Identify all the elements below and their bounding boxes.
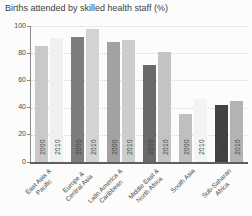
chart-title: Births attended by skilled health staff … xyxy=(5,3,168,13)
bar-group5-2000: 2000 xyxy=(179,114,192,162)
bar-group3-2010: 2010 xyxy=(122,40,135,162)
bar-year-label: 2010 xyxy=(53,139,60,155)
x-axis-line xyxy=(30,162,248,164)
y-tick-mark-80 xyxy=(27,53,30,54)
gridline-80 xyxy=(31,53,247,54)
y-tick-label-60: 60 xyxy=(0,76,26,83)
bar-year-label: 2000 xyxy=(182,139,189,155)
category-label-6: Sub-Saharan Africa xyxy=(200,167,238,205)
y-tick-label-100: 100 xyxy=(0,22,26,29)
bar-year-label: 2000 xyxy=(74,139,81,155)
bar-group6-2010: 2010 xyxy=(230,101,243,162)
y-tick-label-80: 80 xyxy=(0,49,26,56)
bar-group4-2010: 2010 xyxy=(158,52,171,162)
bar-year-label: 2010 xyxy=(89,139,96,155)
category-label-3: Latin America & Caribbean xyxy=(87,167,130,210)
bar-year-label: 2000 xyxy=(146,139,153,155)
gridline-100 xyxy=(31,26,247,27)
y-tick-mark-20 xyxy=(27,134,30,135)
bar-year-label: 2010 xyxy=(161,139,168,155)
category-label-4: Middle East & North Africa xyxy=(127,167,166,206)
bar-group3-2000: 2000 xyxy=(107,42,120,162)
chart-figure: Births attended by skilled health staff … xyxy=(0,0,252,216)
bar-group2-2000: 2000 xyxy=(71,37,84,162)
y-tick-label-40: 40 xyxy=(0,103,26,110)
y-tick-mark-60 xyxy=(27,80,30,81)
category-label-1: East Asia & Pacific xyxy=(23,167,58,202)
bar-group6-2000: 2000 xyxy=(215,105,228,162)
bar-year-label: 2010 xyxy=(233,139,240,155)
y-tick-mark-40 xyxy=(27,107,30,108)
plot-canvas: 2000201020002010200020102000201020002010… xyxy=(31,26,247,162)
y-tick-label-20: 20 xyxy=(0,130,26,137)
y-tick-label-0: 0 xyxy=(0,158,26,165)
y-tick-mark-0 xyxy=(27,162,30,163)
y-tick-mark-100 xyxy=(27,26,30,27)
bar-year-label: 2010 xyxy=(125,139,132,155)
bar-group5-2010: 2010 xyxy=(194,99,207,162)
category-label-5: South Asia xyxy=(169,167,196,194)
bar-group1-2010: 2010 xyxy=(50,38,63,162)
gridline-60 xyxy=(31,80,247,81)
bar-group1-2000: 2000 xyxy=(35,46,48,162)
bar-year-label: 2010 xyxy=(197,139,204,155)
bar-year-label: 2000 xyxy=(218,139,225,155)
bar-group4-2000: 2000 xyxy=(143,65,156,162)
bar-group2-2010: 2010 xyxy=(86,29,99,162)
bar-year-label: 2000 xyxy=(38,139,45,155)
bar-year-label: 2000 xyxy=(110,139,117,155)
